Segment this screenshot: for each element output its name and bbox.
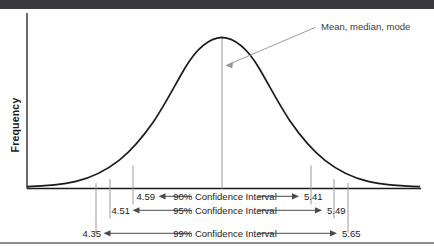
ci-95-lower-value: 4.51 [112, 205, 131, 216]
mean-annotation-arrowhead [226, 62, 233, 69]
ci-99-upper-value: 5.65 [342, 228, 361, 239]
mean-annotation-leader [226, 28, 315, 66]
ci-95-upper-value: 5.49 [327, 205, 346, 216]
ci-90-left-arrowhead [159, 193, 166, 199]
normal-distribution-chart: Frequency Mean, median, mode 4.59 90% Co… [0, 0, 434, 249]
y-axis-label: Frequency [9, 98, 21, 153]
ci-90-upper-value: 5.41 [304, 191, 323, 202]
figure-canvas: Frequency Mean, median, mode 4.59 90% Co… [0, 0, 434, 249]
ci-95-left-arrowhead [133, 207, 140, 213]
normal-curve-path [27, 37, 420, 186]
ci-99-left-arrowhead [104, 230, 111, 236]
ci-99-right-arrowhead [330, 230, 337, 236]
ci-90-lower-value: 4.59 [137, 191, 156, 202]
bottom-rule-decoration [0, 242, 434, 244]
ci-99-lower-value: 4.35 [83, 228, 102, 239]
mean-median-mode-label: Mean, median, mode [321, 21, 410, 32]
ci-95-right-arrowhead [315, 207, 322, 213]
top-band-decoration [0, 0, 434, 9]
ci-90-right-arrowhead [292, 193, 299, 199]
